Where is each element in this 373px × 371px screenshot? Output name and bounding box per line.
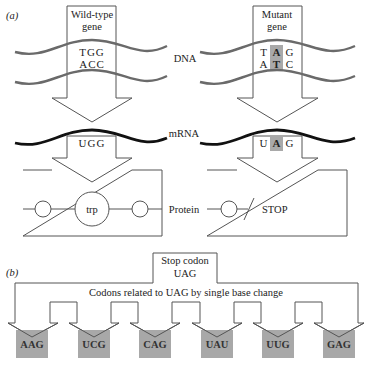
dna-row-label: DNA <box>174 53 197 64</box>
trp-label: trp <box>86 204 98 215</box>
codon-text: UUG <box>266 339 289 350</box>
mutant-dna-top-base-1: T <box>260 46 268 58</box>
wild-type-mrna-seq: UGG <box>79 137 106 149</box>
mutant-dna-top-base-3: G <box>286 46 295 58</box>
mutant-column: Mutant gene T A G A T C U A G STOP <box>200 6 355 236</box>
mutant-gene-label-2: gene <box>267 21 287 32</box>
mutant-dna-bottom-base-2: T <box>273 58 281 70</box>
wild-type-column: Wild-type gene TGG ACC UGG trp <box>15 6 167 236</box>
wild-type-dna-bottom-seq: ACC <box>79 58 105 70</box>
amino-acid-circle <box>221 201 237 217</box>
amino-acid-circle <box>132 201 148 217</box>
codon-tree: Stop codon UAG Codons related to UAG by … <box>8 253 364 358</box>
codon-box-uug: UUG <box>262 330 294 358</box>
codon-box-ucg: UCG <box>78 330 110 358</box>
stop-label: STOP <box>262 204 288 215</box>
codon-text: UAU <box>206 339 229 350</box>
mutant-dna-top-base-2: A <box>273 46 282 58</box>
part-a-label: (a) <box>6 10 19 22</box>
mutant-mrna-base-1: U <box>260 137 269 149</box>
codon-box-gag: GAG <box>323 330 355 358</box>
stop-codon-label-2: UAG <box>174 268 197 279</box>
codon-text: AAG <box>20 339 43 350</box>
mutant-dna-bottom-base-3: C <box>286 58 294 70</box>
codon-text: UCG <box>82 339 105 350</box>
wild-type-dna-top-seq: TGG <box>79 46 105 58</box>
codon-text: CAG <box>143 339 166 350</box>
wild-type-gene-label-1: Wild-type <box>71 9 113 20</box>
codon-text: GAG <box>327 339 351 350</box>
mutant-mrna-base-3: G <box>286 137 295 149</box>
codon-box-aag: AAG <box>16 330 48 358</box>
mutant-gene-label-1: Mutant <box>262 9 292 20</box>
mutant-dna-bottom-base-1: A <box>260 58 269 70</box>
amino-acid-circle <box>35 201 51 217</box>
codon-box-cag: CAG <box>139 330 171 358</box>
part-b-label: (b) <box>6 267 19 279</box>
mrna-row-label: mRNA <box>169 128 200 139</box>
protein-row-label: Protein <box>169 204 200 215</box>
mutant-mrna-base-2: A <box>273 137 282 149</box>
bracket-label: Codons related to UAG by single base cha… <box>89 287 283 298</box>
wild-type-gene-label-2: gene <box>82 21 102 32</box>
stop-codon-label-1: Stop codon <box>161 255 209 266</box>
codon-arrowheads <box>8 323 364 337</box>
genetic-code-mutation-diagram: (a) Wild-type gene TGG ACC UGG trp DNA m… <box>0 0 373 371</box>
codon-box-uau: UAU <box>201 330 233 358</box>
